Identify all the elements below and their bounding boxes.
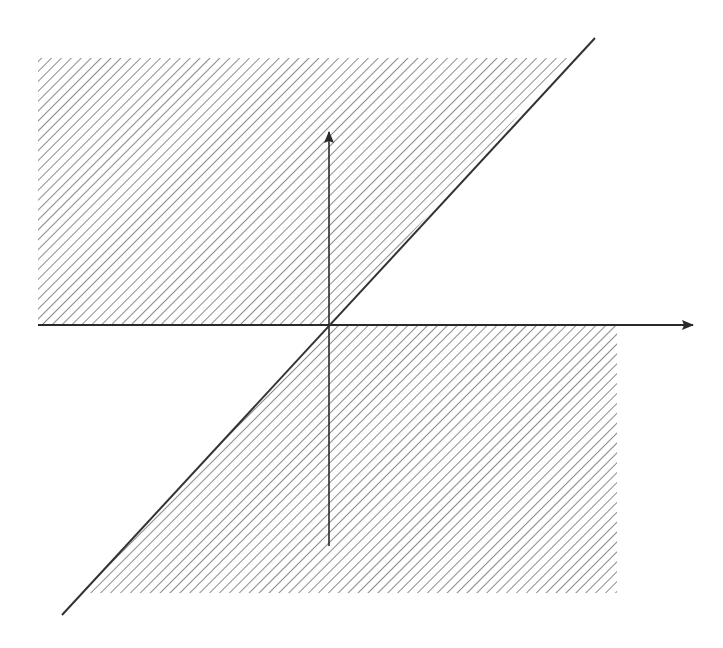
diagram-canvas bbox=[0, 0, 723, 648]
lower-hatched-region bbox=[82, 325, 617, 593]
upper-hatched-region bbox=[38, 58, 570, 325]
